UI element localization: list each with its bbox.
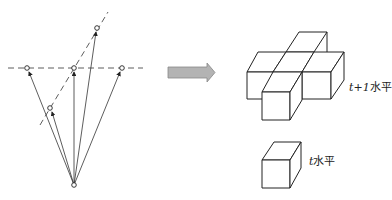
upper-level-label: t+1水平 [349,82,392,93]
upper-level-text: 水平 [370,81,392,94]
vector-arrow [74,72,120,185]
lower-level-text: 水平 [313,155,335,168]
vector-arrow [74,32,96,185]
lower-level-label: t水平 [309,156,335,167]
point-marker [72,66,77,71]
origin-marker [72,183,77,188]
vector-arrow [52,112,74,185]
diagram-canvas [0,0,392,200]
cube-cross-t-plus-1 [247,32,344,120]
cube-t [262,142,301,188]
point-marker [48,106,53,111]
point-marker [120,66,125,71]
vector-arrow [29,72,74,185]
transform-arrow [168,63,215,82]
point-marker [25,66,30,71]
upper-level-variable: t+1 [349,81,370,94]
vector-diagram [8,12,143,187]
point-marker [95,26,100,31]
